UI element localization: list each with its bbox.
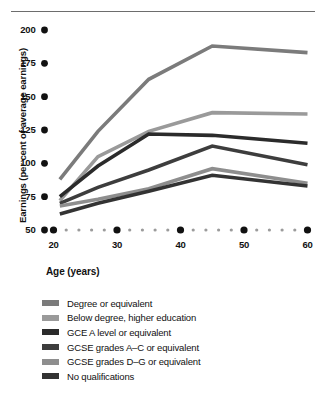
y-axis-tick-label: 150 [10,91,36,102]
y-axis-tick-label: 50 [10,224,36,235]
x-axis-tick-label: 60 [296,239,320,250]
legend-color-swatch [42,373,59,379]
legend-color-swatch [42,300,59,306]
legend-item-label: GCE A level or equivalent [67,327,171,338]
x-axis-tick-label: 50 [232,239,256,250]
y-axis-tick-label: 125 [10,124,36,135]
chart-legend: Degree or equivalentBelow degree, higher… [42,296,322,384]
legend-item[interactable]: GCE A level or equivalent [42,325,322,340]
x-axis-title: Age (years) [46,266,99,277]
legend-color-swatch [42,359,59,365]
legend-item-label: No qualifications [67,371,134,382]
legend-item[interactable]: Degree or equivalent [42,296,322,311]
x-axis-tick-label: 30 [105,239,129,250]
legend-item-label: GCSE grades D–G or equivalent [67,356,200,367]
legend-item-label: Degree or equivalent [67,298,152,309]
legend-item[interactable]: Below degree, higher education [42,311,322,326]
y-axis-tick-label: 75 [10,191,36,202]
legend-color-swatch [42,329,59,335]
x-axis-tick-label: 40 [169,239,193,250]
chart-figure: Earnings (per cent of average earnings) … [0,0,329,404]
series-line [60,175,308,214]
series-line [60,146,308,203]
legend-item[interactable]: GCSE grades A–C or equivalent [42,340,322,355]
line-chart-plot [0,0,329,260]
x-axis-tick-label: 20 [42,239,66,250]
y-axis-tick-label: 100 [10,157,36,168]
legend-item-label: Below degree, higher education [67,312,196,323]
legend-item-label: GCSE grades A–C or equivalent [67,342,199,353]
legend-item[interactable]: No qualifications [42,369,322,384]
y-axis-tick-label: 200 [10,24,36,35]
legend-color-swatch [42,315,59,321]
legend-item[interactable]: GCSE grades D–G or equivalent [42,354,322,369]
y-axis-tick-label: 175 [10,57,36,68]
legend-color-swatch [42,344,59,350]
